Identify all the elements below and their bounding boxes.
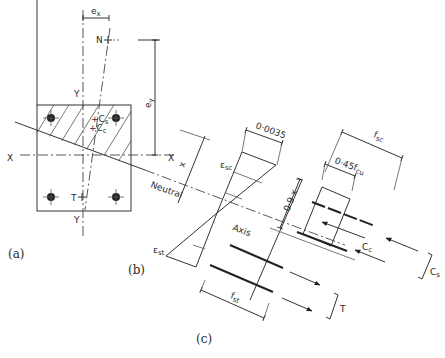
- Y-bottom-label: Y: [73, 215, 80, 225]
- neutral-axis: [145, 170, 275, 219]
- T-arrow-lower: [282, 298, 312, 311]
- cross-section-panel: ex N ey Y Y X X +Cs +Cc T (a): [7, 0, 175, 261]
- Cs-arrow-upper: [386, 238, 418, 251]
- eps-sc-label: εsc: [220, 160, 233, 172]
- T-label: T: [339, 304, 346, 314]
- X-left-label: X: [7, 153, 13, 163]
- stress-diagram-panel: 0·9 x 0·45fcu fsc Cc Cs T: [196, 129, 440, 346]
- caption-a: (a): [8, 247, 25, 261]
- caption-b: (b): [128, 263, 145, 277]
- neutral-axis-line-a: [15, 122, 145, 170]
- tension-strain-triangle: [166, 213, 217, 267]
- Cs-label: Cs: [430, 267, 440, 279]
- Y-top-label: Y: [73, 89, 80, 99]
- fsc-label: fsc: [372, 129, 386, 144]
- strain-diagram-panel: Neutral Axis x 0·0035 εsc εst (b): [128, 120, 345, 277]
- T-bracket: [326, 293, 338, 319]
- axis-label: Axis: [231, 222, 252, 238]
- ey-label: ey: [143, 98, 155, 108]
- fsc-dimension: [342, 132, 402, 158]
- T-arrow-upper: [290, 272, 320, 285]
- compression-strain-triangle: [217, 152, 276, 213]
- Cc-arrow: [322, 222, 365, 238]
- tension-steel-stress-upper: [230, 245, 283, 268]
- x-depth-label: x: [176, 160, 187, 169]
- T-label: T: [70, 193, 77, 203]
- eps-st-label: εst: [153, 245, 165, 257]
- x-depth-dimension: [178, 136, 205, 203]
- ex-label: ex: [91, 6, 101, 18]
- strain-limit-label: 0·0035: [254, 120, 287, 140]
- Cc-label: Cc: [362, 242, 372, 254]
- depth-0-9x-label: 0·9 x: [282, 188, 300, 213]
- N-label: N: [96, 35, 103, 45]
- biaxial-bending-diagram: ex N ey Y Y X X +Cs +Cc T (a) Neutral Ax…: [0, 0, 445, 358]
- caption-c: (c): [196, 332, 212, 346]
- X-right-label: X: [168, 153, 174, 163]
